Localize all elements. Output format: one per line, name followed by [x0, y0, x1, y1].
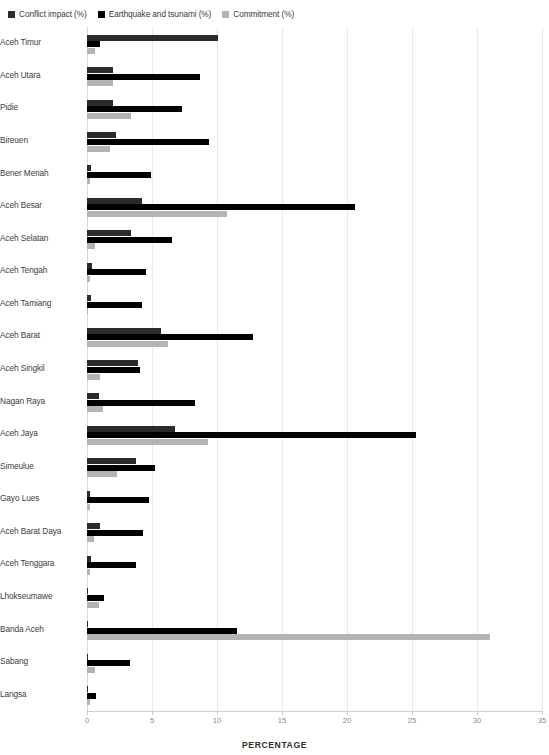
bar-1: [87, 465, 155, 471]
bar-group: [87, 255, 542, 288]
category-label: Gayo Lues: [0, 493, 80, 503]
bar-group: [87, 548, 542, 581]
bar-group: [87, 516, 542, 549]
x-tick-label-5: 5: [150, 716, 154, 725]
bar-0: [87, 393, 99, 399]
bar-1: [87, 334, 253, 340]
category-label: Langsa: [0, 689, 80, 699]
bar-1: [87, 204, 355, 210]
category-label: Aceh Singkil: [0, 363, 80, 373]
category-label: Aceh Barat Daya: [0, 526, 80, 536]
bar-group: [87, 678, 542, 711]
bar-group: [87, 646, 542, 679]
bar-1: [87, 595, 104, 601]
bar-1: [87, 497, 149, 503]
bar-0: [87, 100, 113, 106]
chart-legend: Conflict impact (%) Earthquake and tsuna…: [8, 9, 294, 19]
legend-swatch-earthquake-and-tsunami: [98, 11, 105, 18]
bar-2: [87, 667, 95, 673]
bar-2: [87, 504, 90, 510]
bar-1: [87, 367, 140, 373]
bar-2: [87, 699, 90, 705]
bar-0: [87, 491, 90, 497]
bar-2: [87, 178, 90, 184]
bar-1: [87, 237, 172, 243]
bar-group: [87, 60, 542, 93]
bar-0: [87, 328, 161, 334]
bar-group: [87, 190, 542, 223]
bar-0: [87, 458, 136, 464]
bar-0: [87, 588, 88, 594]
legend-label-commitment: Commitment (%): [233, 9, 294, 19]
category-label: Aceh Besar: [0, 200, 80, 210]
bar-group: [87, 483, 542, 516]
x-tick-25: [412, 711, 413, 715]
bar-group: [87, 418, 542, 451]
category-label: Aceh Tenggara: [0, 558, 80, 568]
legend-label-conflict-impact: Conflict impact (%): [19, 9, 87, 19]
bar-1: [87, 172, 151, 178]
x-axis-title: PERCENTAGE: [0, 740, 549, 750]
bar-2: [87, 439, 208, 445]
legend-label-earthquake-and-tsunami: Earthquake and tsunami (%): [109, 9, 212, 19]
bar-2: [87, 536, 94, 542]
bar-1: [87, 302, 142, 308]
bar-2: [87, 569, 90, 575]
bar-1: [87, 628, 237, 634]
category-label: Aceh Selatan: [0, 233, 80, 243]
bar-2: [87, 146, 110, 152]
x-tick-15: [282, 711, 283, 715]
bar-group: [87, 385, 542, 418]
legend-item-commitment: Commitment (%): [222, 9, 294, 19]
category-label: Simeulue: [0, 461, 80, 471]
bar-2: [87, 80, 113, 86]
bar-0: [87, 67, 113, 73]
x-tick-label-30: 30: [473, 716, 481, 725]
bar-group: [87, 157, 542, 190]
bar-group: [87, 613, 542, 646]
bar-0: [87, 198, 142, 204]
bar-0: [87, 523, 100, 529]
x-tick-label-0: 0: [85, 716, 89, 725]
bar-group: [87, 27, 542, 60]
bar-1: [87, 693, 96, 699]
legend-swatch-conflict-impact: [8, 11, 15, 18]
bar-1: [87, 106, 182, 112]
bar-1: [87, 41, 100, 47]
bar-0: [87, 263, 92, 269]
category-label: Bener Meriah: [0, 168, 80, 178]
bar-1: [87, 269, 146, 275]
bar-groups: [87, 27, 542, 711]
category-label: Aceh Timur: [0, 37, 80, 47]
x-tick-label-25: 25: [408, 716, 416, 725]
bar-1: [87, 74, 200, 80]
category-label: Lhokseumawe: [0, 591, 80, 601]
bar-chart: Conflict impact (%) Earthquake and tsuna…: [0, 0, 549, 755]
bar-0: [87, 360, 138, 366]
bar-2: [87, 471, 117, 477]
bar-0: [87, 35, 218, 41]
category-label: Aceh Tengah: [0, 265, 80, 275]
x-tick-30: [477, 711, 478, 715]
category-label: Nagan Raya: [0, 396, 80, 406]
bar-0: [87, 426, 175, 432]
bar-2: [87, 243, 95, 249]
bar-2: [87, 308, 88, 314]
bar-0: [87, 556, 91, 562]
bar-group: [87, 320, 542, 353]
bar-0: [87, 654, 88, 660]
bar-0: [87, 132, 116, 138]
bar-1: [87, 530, 143, 536]
bar-0: [87, 230, 131, 236]
category-label: Bireuen: [0, 135, 80, 145]
category-label: Aceh Tamiang: [0, 298, 80, 308]
category-label: Aceh Jaya: [0, 428, 80, 438]
bar-0: [87, 165, 91, 171]
bar-1: [87, 400, 195, 406]
bar-1: [87, 660, 130, 666]
gridline-35: [542, 27, 543, 711]
bar-1: [87, 562, 136, 568]
bar-0: [87, 621, 88, 627]
bar-0: [87, 295, 91, 301]
bar-1: [87, 432, 416, 438]
